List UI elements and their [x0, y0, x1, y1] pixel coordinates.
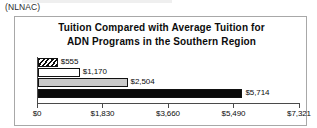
x-tick-label: $3,660 — [156, 109, 180, 119]
x-tick-label: $5,490 — [222, 109, 246, 119]
plot-area: $555 $1,170 $2,504 $5,714 — [37, 57, 299, 103]
x-tick-mark — [168, 104, 169, 108]
clipped-text-artifact — [22, 0, 172, 3]
x-tick-label: $0 — [33, 109, 42, 119]
x-tick-label: $7,321 — [287, 109, 311, 119]
bar-value-label-0: $555 — [61, 57, 78, 67]
figure-caption-area: (NLNAC) — [0, 0, 317, 16]
chart-title-line-2: ADN Programs in the Southern Region — [15, 35, 308, 49]
bar-value-label-1: $1,170 — [83, 67, 107, 77]
bar-series-0[interactable] — [38, 58, 58, 67]
x-tick-mark — [233, 104, 234, 108]
chart-container: Tuition Compared with Average Tuition fo… — [14, 16, 307, 126]
bar-series-3[interactable] — [38, 89, 242, 98]
bar-value-label-2: $2,504 — [131, 77, 155, 87]
chart-title: Tuition Compared with Average Tuition fo… — [15, 21, 308, 49]
chart-title-line-1: Tuition Compared with Average Tuition fo… — [15, 21, 308, 35]
caption-text: (NLNAC) — [5, 2, 40, 13]
x-tick-label: $1,830 — [91, 109, 115, 119]
bar-value-label-3: $5,714 — [245, 88, 269, 98]
bar-series-2[interactable] — [38, 78, 128, 87]
x-tick-mark — [37, 104, 38, 108]
x-tick-mark — [102, 104, 103, 108]
bar-series-1[interactable] — [38, 68, 80, 77]
x-tick-mark — [299, 104, 300, 108]
